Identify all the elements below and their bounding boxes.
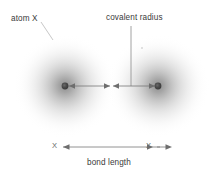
diagram-canvas: atom X covalent radius bond length X X — [0, 0, 218, 177]
cloud-speck — [141, 47, 143, 49]
bond-length-label: bond length — [87, 158, 131, 167]
atom-x-label: atom X — [11, 14, 38, 23]
nucleus-right — [155, 83, 162, 90]
bond-length-arrowhead-left — [63, 144, 70, 150]
covalent-radius-label: covalent radius — [106, 13, 163, 22]
bond-length-arrowhead-right-outer — [166, 144, 173, 150]
bond-length-tick-right: X — [146, 141, 151, 150]
bond-length-tick-left: X — [52, 141, 57, 150]
diagram-svg — [0, 0, 218, 177]
nucleus-left — [62, 83, 69, 90]
